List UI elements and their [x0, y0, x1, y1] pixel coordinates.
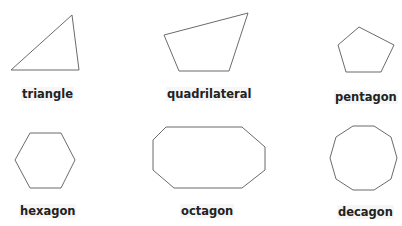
decagon-label: decagon [337, 205, 394, 219]
quadrilateral-shape [164, 13, 248, 71]
hexagon-shape [15, 133, 75, 188]
octagon-shape [153, 127, 265, 188]
decagon-shape [330, 126, 397, 190]
pentagon-label: pentagon [334, 90, 398, 104]
triangle-shape [11, 15, 79, 70]
shapes-canvas [0, 0, 402, 226]
quadrilateral-label: quadrilateral [166, 87, 252, 101]
pentagon-shape [338, 27, 394, 72]
octagon-label: octagon [180, 204, 234, 218]
hexagon-label: hexagon [19, 204, 76, 218]
triangle-label: triangle [21, 87, 74, 101]
